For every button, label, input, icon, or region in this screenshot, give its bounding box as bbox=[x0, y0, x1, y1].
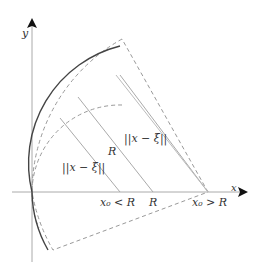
r-tick-label: R bbox=[149, 197, 157, 208]
norm-outer-label: ||x − ξ|| bbox=[124, 133, 167, 144]
y-axis-label: y bbox=[22, 28, 28, 39]
solid-arc bbox=[29, 46, 120, 250]
x0-less-label: x₀ < R bbox=[100, 197, 135, 208]
norm-inner-label: ||x − ξ|| bbox=[62, 162, 105, 173]
radius-label: R bbox=[108, 146, 116, 157]
diagram-canvas: y x ||x − ξ|| R ||x − ξ|| x₀ < R R x₀ > … bbox=[0, 0, 260, 272]
x-axis-label: x bbox=[231, 183, 237, 193]
x0-greater-label: x₀ > R bbox=[192, 197, 227, 208]
outer-dashed-arc bbox=[32, 39, 208, 250]
